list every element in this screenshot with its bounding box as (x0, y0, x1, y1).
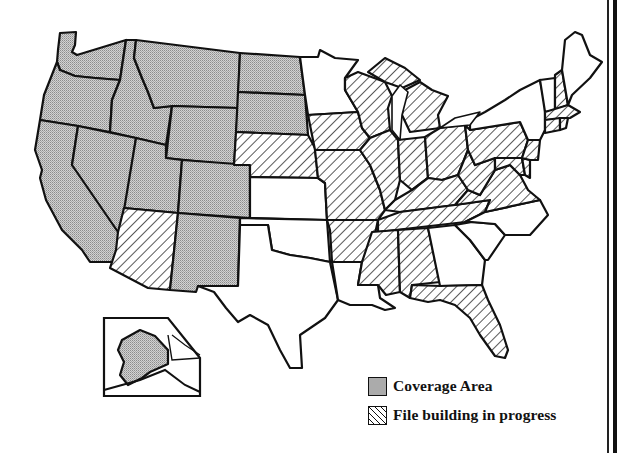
stipple-swatch-icon (368, 377, 387, 396)
state-colorado (178, 160, 250, 218)
state-montana (134, 40, 240, 108)
state-connecticut (545, 118, 560, 133)
legend-item-coverage: Coverage Area (368, 373, 556, 399)
page-border-thin (607, 0, 609, 453)
state-new-mexico (170, 213, 240, 292)
state-maine (562, 32, 602, 105)
page-border-thick (613, 0, 617, 453)
hatch-swatch-icon (368, 406, 387, 425)
state-rhode-island (560, 118, 568, 130)
state-arizona (110, 208, 178, 290)
state-florida (410, 285, 508, 358)
legend-item-progress: File building in progress (368, 402, 556, 428)
legend-label-coverage: Coverage Area (393, 377, 493, 395)
state-wyoming (166, 106, 238, 165)
alaska-inset (104, 318, 200, 396)
state-michigan (402, 82, 448, 132)
legend-label-progress: File building in progress (393, 406, 556, 424)
state-south-dakota (236, 92, 308, 135)
state-north-dakota (238, 53, 305, 95)
state-kansas (250, 177, 327, 220)
map-legend: Coverage Area File building in progress (368, 373, 556, 431)
